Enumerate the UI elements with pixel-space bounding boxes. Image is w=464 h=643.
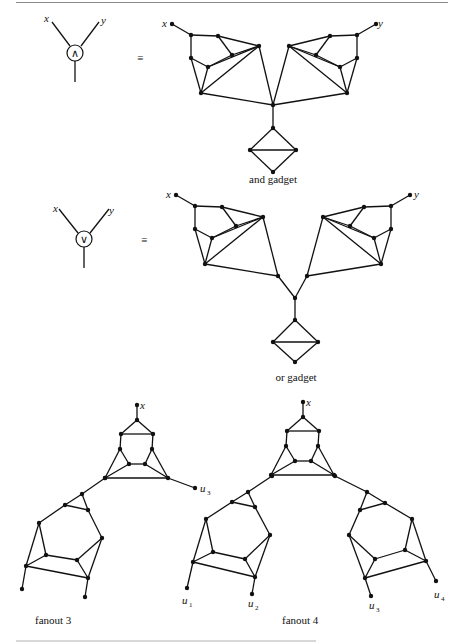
or-gadget-node [389,227,393,231]
and-gadget-edge [316,55,340,67]
or-gadget-node [210,236,214,240]
or-gadget-node [389,204,393,208]
and-gadget-node [189,33,193,37]
and-gadget-node [230,53,234,57]
fanout4-edge [365,578,371,596]
and-gadget-node [355,56,359,60]
svg-text:u: u [200,482,206,494]
svg-text:3: 3 [207,489,211,497]
or-gadget-node [203,262,207,266]
or-gadget-edge [195,206,222,207]
fanout4-edge [367,492,385,503]
fanout3-node [151,432,155,436]
fanout4-node [285,429,289,433]
fanout3-edge [65,494,82,505]
and-gadget-node [189,56,193,60]
fanout3-node [135,403,139,407]
fanout3-u3-label: u 3 [200,482,211,497]
or-gadget-edge [195,229,205,264]
fanout4-node [347,533,351,537]
fanout4-node [363,576,367,580]
fanout4-edge [335,476,367,492]
fanout3-node [63,503,67,507]
or-gadget-node [276,274,280,278]
or-gadget-edge [212,226,236,238]
or-gadget-edge [381,229,391,264]
fanout3-edge [46,555,77,560]
fanout3-node [37,521,41,525]
or-gadget-node [293,318,297,322]
or-gadget-edge [295,342,318,362]
or-gadget-node [348,224,352,228]
and-gadget-node [328,34,332,38]
or-gadget-edge [205,264,278,276]
svg-text:4: 4 [441,595,445,603]
fanout4-edge [193,562,255,577]
and-gadget-node [206,65,210,69]
fanout4-u4-label: u 4 [434,588,445,603]
or-input-x: x [52,202,58,214]
fanout3-node [166,476,170,480]
fanout4-node [230,500,234,504]
fanout3-edge [39,523,46,555]
fanout4-edge [193,519,206,562]
fanout4-node [301,415,305,419]
or-gadget-edge [295,276,307,298]
fanout3-node [75,558,79,562]
fanout4-edge [360,503,385,510]
and-gadget-edge [273,128,296,150]
or-gadget-node [174,193,178,197]
or-gadget-edge [307,264,381,276]
and-gadget-node [170,22,174,26]
svg-text:u: u [182,594,188,606]
fanout4-edge [232,502,255,507]
fanout4-edge [213,552,245,559]
and-gadget-node [257,44,261,48]
or-gadget-edge [391,195,410,206]
fanout4-node [424,559,428,563]
fanout3-node [119,432,123,436]
fanout4-u3-label: u 3 [369,599,380,614]
or-gadget-node [321,215,325,219]
or-gadget-edge [273,320,295,342]
fanout4-node [270,474,274,478]
or-gadget-edge [350,226,374,238]
fanout4-edge [303,417,319,431]
fanout3-node [135,418,139,422]
and-gadget-node [287,44,291,48]
and-gadget-edge [201,67,208,93]
fanout3-edge [82,478,105,494]
svg-text:u: u [434,588,440,600]
fanout3-node [103,476,107,480]
fanout4-edge [405,519,412,550]
fanout3-edge [26,566,88,578]
or-gadget-edge [364,206,391,207]
fanout3-node [83,595,87,599]
and-input-x: x [43,12,49,24]
fanout4-node [317,429,321,433]
and-gadget-edge [250,128,273,150]
fanout3-node [44,553,48,557]
fanout3-node [143,462,147,466]
fanout3-node [193,486,197,490]
gadget-figure: ∧ x y ≡ ∨ x y ≡ x y and gadget x y or ga… [0,0,464,643]
or-gadget-node [220,205,224,209]
and-gadget-node [314,53,318,57]
fanout4-edge [385,503,412,519]
svg-text:u: u [248,597,254,609]
fanout3-x-label: x [139,399,145,411]
or-gadget-node [316,340,320,344]
fanout4-node [204,517,208,521]
and-gadget-y-label: y [377,17,383,29]
fanout4-edge [375,550,405,559]
or-gadget-edge [295,320,318,342]
and-gadget-edge [273,150,296,172]
and-gadget-edge [172,24,191,35]
and-gadget-node [338,65,342,69]
fanout3-edge [152,434,153,449]
fanout4-node [301,400,305,404]
fanout3-node [118,447,122,451]
and-gadget-edge [191,58,201,93]
and-gadget-node [355,33,359,37]
or-gadget-node [372,236,376,240]
